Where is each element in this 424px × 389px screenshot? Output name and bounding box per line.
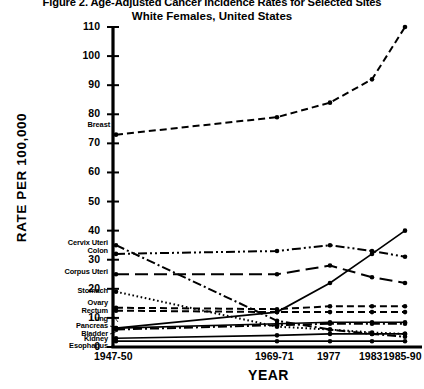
data-point	[328, 304, 333, 309]
data-point	[403, 255, 408, 260]
series-line-ovary	[116, 306, 405, 309]
data-point	[328, 100, 333, 105]
data-point	[328, 281, 333, 286]
data-point	[370, 310, 375, 315]
data-point	[114, 132, 119, 137]
data-point	[328, 321, 333, 326]
data-point	[114, 308, 119, 313]
data-point	[275, 310, 280, 315]
chart-figure: Figure 2. Age-Adjusted Cancer Incidence …	[0, 0, 424, 389]
data-point	[328, 332, 333, 337]
series-line-corpus-uteri	[116, 266, 405, 283]
data-point	[403, 304, 408, 309]
series-line-rectum	[116, 311, 405, 312]
series-line-breast	[116, 27, 405, 135]
data-point	[370, 275, 375, 280]
data-point	[114, 252, 119, 257]
data-point	[275, 272, 280, 277]
series-line-lung	[116, 231, 405, 328]
data-point	[275, 249, 280, 254]
data-point	[275, 339, 280, 344]
data-point	[403, 228, 408, 233]
data-point	[403, 281, 408, 286]
data-point	[275, 333, 280, 338]
data-point	[328, 339, 333, 344]
data-point	[403, 25, 408, 30]
data-point	[370, 332, 375, 337]
series-line-kidney	[116, 334, 405, 338]
data-point	[370, 304, 375, 309]
data-point	[275, 115, 280, 120]
data-point	[403, 339, 408, 344]
data-point	[114, 339, 119, 344]
data-point	[328, 310, 333, 315]
data-point	[370, 252, 375, 257]
data-point	[403, 310, 408, 315]
series-line-colon	[116, 245, 405, 257]
data-point	[114, 272, 119, 277]
data-point	[275, 323, 280, 328]
data-point	[370, 339, 375, 344]
data-point	[328, 243, 333, 248]
data-point	[370, 77, 375, 82]
data-point	[370, 321, 375, 326]
data-point	[114, 243, 119, 248]
data-point	[114, 289, 119, 294]
plot-area	[0, 0, 424, 389]
data-point	[403, 321, 408, 326]
data-point	[328, 263, 333, 268]
data-point	[328, 327, 333, 332]
data-point	[403, 332, 408, 337]
